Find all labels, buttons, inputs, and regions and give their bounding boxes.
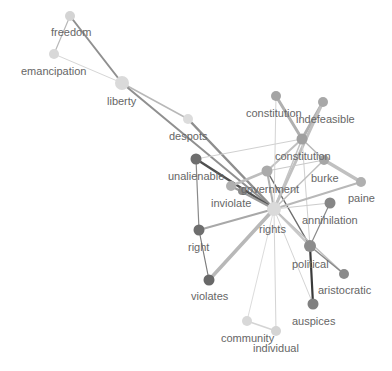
network-graph: freedomemancipationlibertydespotsunalien… — [0, 0, 392, 371]
node-label-rights: rights — [259, 223, 286, 235]
node-indefeasible[interactable] — [318, 97, 328, 107]
node-label-constitution1: constitution — [246, 107, 302, 119]
node-auspices[interactable] — [308, 299, 319, 310]
node-right[interactable] — [194, 225, 205, 236]
edge-rights-violates — [209, 209, 274, 280]
node-liberty[interactable] — [115, 76, 129, 90]
edge-right-violates — [199, 230, 209, 280]
edge-political-auspices — [310, 246, 313, 304]
node-paine[interactable] — [356, 177, 366, 187]
node-label-political: political — [292, 258, 329, 270]
node-label-inviolate: inviolate — [211, 197, 251, 209]
node-label-burke: burke — [311, 172, 339, 184]
node-label-emancipation: emancipation — [21, 65, 86, 77]
node-label-liberty: liberty — [107, 95, 137, 107]
node-label-indefeasible: indefeasible — [296, 113, 355, 125]
node-label-individual: individual — [253, 342, 299, 354]
node-inviolate[interactable] — [226, 181, 236, 191]
node-freedom[interactable] — [65, 11, 75, 21]
node-label-aristocratic: aristocratic — [318, 284, 372, 296]
node-label-paine: paine — [348, 192, 375, 204]
label-layer: freedomemancipationlibertydespotsunalien… — [21, 26, 375, 354]
node-label-annihilation: annihilation — [302, 214, 358, 226]
node-label-government: government — [241, 183, 299, 195]
node-label-auspices: auspices — [292, 315, 336, 327]
node-constitution1[interactable] — [271, 91, 281, 101]
node-violates[interactable] — [204, 275, 215, 286]
node-rights[interactable] — [267, 202, 281, 216]
node-unalienable[interactable] — [191, 154, 202, 165]
node-community[interactable] — [242, 316, 252, 326]
node-label-constitution2: constitution — [275, 150, 331, 162]
node-aristocratic[interactable] — [339, 269, 349, 279]
node-label-freedom: freedom — [51, 26, 91, 38]
node-label-violates: violates — [191, 290, 229, 302]
node-annihilation[interactable] — [325, 198, 336, 209]
node-label-despots: despots — [169, 130, 208, 142]
network-graph-canvas: freedomemancipationlibertydespotsunalien… — [0, 0, 392, 371]
node-label-unalienable: unalienable — [168, 170, 224, 182]
node-despots[interactable] — [183, 114, 193, 124]
node-emancipation[interactable] — [49, 49, 59, 59]
node-government[interactable] — [262, 166, 273, 177]
node-political[interactable] — [304, 240, 316, 252]
node-label-right: right — [188, 241, 209, 253]
node-constitution2[interactable] — [297, 134, 308, 145]
